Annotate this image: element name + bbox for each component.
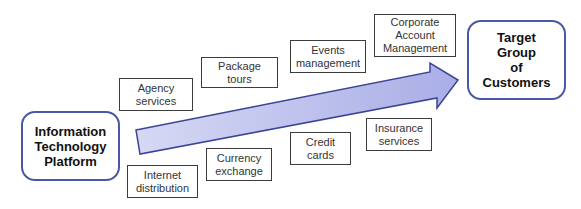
source-node-it-platform: Information Technology Platform [21,111,120,181]
service-corporate-account: Corporate Account Management [374,14,456,57]
service-agency: Agency services [119,78,193,111]
service-events: Events management [290,40,366,73]
service-credit-cards: Credit cards [290,132,351,165]
service-insurance: Insurance services [366,118,432,151]
service-currency-exchange: Currency exchange [206,148,272,181]
target-node-customers: Target Group of Customers [467,20,566,100]
service-internet-distribution: Internet distribution [127,165,198,198]
service-package-tours: Package tours [201,57,278,88]
